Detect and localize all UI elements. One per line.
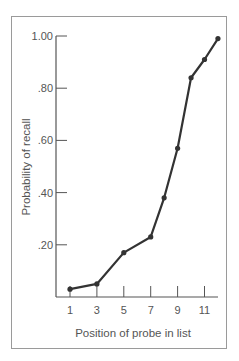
x-tick-label: 3 [94, 304, 100, 316]
data-point [188, 75, 193, 80]
data-point [162, 195, 167, 200]
y-tick-label: .80 [38, 82, 53, 94]
x-axis-title: Position of probe in list [75, 327, 192, 339]
data-point [94, 281, 99, 286]
x-tick-label: 11 [199, 304, 210, 316]
data-point [202, 57, 207, 62]
y-tick-label: .20 [38, 239, 53, 251]
x-tick-labels: 1357911 [67, 304, 210, 316]
x-tick-label: 1 [67, 304, 73, 316]
x-tick-label: 5 [121, 304, 127, 316]
data-point [67, 287, 72, 292]
data-point [148, 234, 153, 239]
serial-position-chart: 1.00.80.60.40.20 1357911 Probability of … [0, 0, 239, 361]
y-tick-labels: 1.00.80.60.40.20 [32, 30, 53, 251]
y-tick-label: 1.00 [32, 30, 53, 42]
data-line [70, 39, 218, 290]
x-tick-label: 7 [148, 304, 154, 316]
y-tick-label: .40 [38, 187, 53, 199]
data-series [67, 36, 220, 292]
data-point [215, 36, 220, 41]
x-tick-label: 9 [175, 304, 181, 316]
y-axis-title: Probability of recall [20, 118, 32, 215]
data-point [175, 146, 180, 151]
data-point [121, 250, 126, 255]
y-tick-label: .60 [38, 134, 53, 146]
